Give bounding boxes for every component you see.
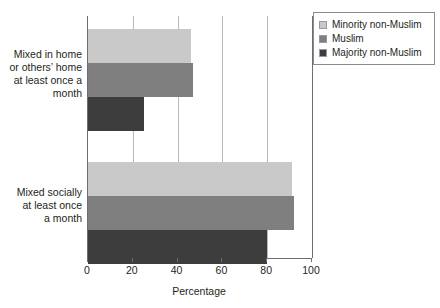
x-tick-mark [177, 258, 178, 262]
bar-chart: Mixed in home or others’ home at least o… [0, 0, 440, 308]
legend-swatch-icon [319, 49, 327, 57]
x-tick-label: 60 [206, 264, 236, 276]
bar-majority-non-muslim [88, 97, 144, 131]
legend-item-majority-non-muslim: Majority non-Muslim [319, 46, 430, 59]
legend: Minority non-Muslim Muslim Majority non-… [313, 12, 435, 65]
category-label-mixed-socially: Mixed socially at least once a month [4, 186, 82, 225]
legend-item-minority-non-muslim: Minority non-Muslim [319, 18, 430, 31]
x-tick-label: 20 [117, 264, 147, 276]
x-tick-label: 0 [72, 264, 102, 276]
category-label-line: Mixed socially [4, 186, 82, 199]
category-label-line: at least once [4, 199, 82, 212]
x-tick-label: 80 [251, 264, 281, 276]
x-tick-mark [87, 258, 88, 262]
x-axis-title: Percentage [87, 285, 311, 297]
x-tick-label: 100 [296, 264, 326, 276]
bar-majority-non-muslim [88, 230, 267, 264]
x-tick-mark [132, 258, 133, 262]
legend-label: Majority non-Muslim [332, 47, 421, 59]
category-label-line: Mixed in home [4, 48, 82, 61]
legend-swatch-icon [319, 21, 327, 29]
category-label-line: at least once a [4, 74, 82, 87]
bar-muslim [88, 196, 294, 230]
legend-label: Muslim [332, 33, 364, 45]
category-label-line: a month [4, 212, 82, 225]
category-label-line: or others’ home [4, 61, 82, 74]
bar-minority-non-muslim [88, 162, 292, 196]
bar-minority-non-muslim [88, 29, 191, 63]
category-label-line: month [4, 87, 82, 100]
x-tick-mark [266, 258, 267, 262]
plot-area [87, 16, 312, 259]
bar-muslim [88, 63, 193, 97]
x-tick-label: 40 [162, 264, 192, 276]
legend-label: Minority non-Muslim [332, 19, 421, 31]
x-tick-mark [311, 258, 312, 262]
x-tick-mark [221, 258, 222, 262]
legend-item-muslim: Muslim [319, 32, 430, 45]
legend-swatch-icon [319, 35, 327, 43]
category-label-mixed-in-home: Mixed in home or others’ home at least o… [4, 48, 82, 100]
